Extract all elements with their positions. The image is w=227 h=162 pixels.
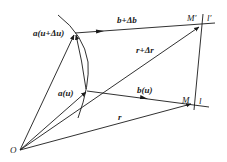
label-r: r xyxy=(118,113,122,122)
label-b-u: b(u) xyxy=(137,86,153,95)
label-l: l xyxy=(199,97,202,106)
label-M: M xyxy=(182,96,190,105)
arrow-b-db xyxy=(96,29,104,34)
label-a-u: a(u) xyxy=(58,89,74,98)
label-a-u-du: a(u+Δu) xyxy=(33,29,64,38)
label-b-db: b+Δb xyxy=(117,16,137,25)
label-M-prime: M′ xyxy=(187,14,196,23)
label-origin: O xyxy=(10,146,17,155)
ruling-l-prime xyxy=(75,23,215,33)
label-r-dr: r+Δr xyxy=(136,46,154,55)
vector-r-dr xyxy=(20,27,199,150)
label-l-prime: l′ xyxy=(207,14,211,23)
diagram-svg xyxy=(0,0,227,162)
ruled-surface-diagram: a(u+Δu) a(u) b+Δb b(u) r+Δr r M′ l′ M l … xyxy=(0,0,227,162)
chord-arrow xyxy=(76,35,86,89)
